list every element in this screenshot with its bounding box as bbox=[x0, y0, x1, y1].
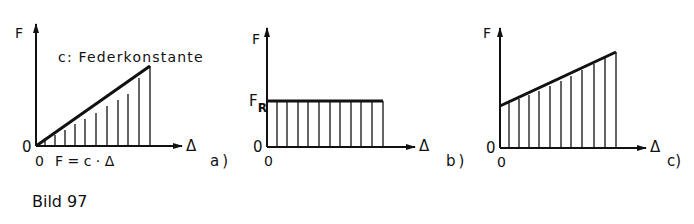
y-axis-label-b: F bbox=[252, 31, 260, 47]
level-label-b: FR bbox=[249, 92, 267, 115]
panel-tag-a: a) bbox=[210, 152, 231, 170]
figure-caption: Bild 97 bbox=[32, 192, 87, 211]
force-line-c bbox=[500, 52, 616, 106]
origin-y-label-c: 0 bbox=[486, 139, 496, 157]
origin-x-label-a: 0 bbox=[35, 153, 44, 169]
panel-b: F Δ 0 0 FR b) bbox=[249, 28, 467, 170]
hatching-b bbox=[277, 101, 383, 147]
origin-y-label-a: 0 bbox=[22, 138, 32, 156]
x-axis-label-a: Δ bbox=[186, 137, 197, 155]
force-line-a bbox=[36, 66, 150, 146]
level-label-sub: R bbox=[258, 101, 267, 115]
hatching-c bbox=[509, 52, 616, 148]
annotation-a: c: Federkonstante bbox=[58, 49, 204, 65]
panel-c: F Δ 0 0 c) bbox=[483, 25, 681, 170]
panel-tag-b: b) bbox=[446, 152, 467, 170]
formula-a: F = c · Δ bbox=[55, 153, 115, 169]
figure-canvas: F Δ 0 0 c: Federkonstante F = c · Δ a) F… bbox=[0, 0, 694, 224]
y-axis-label-c: F bbox=[483, 25, 491, 41]
x-axis-label-c: Δ bbox=[650, 138, 661, 156]
level-label-main: F bbox=[249, 92, 258, 110]
panel-tag-c: c) bbox=[667, 152, 681, 170]
origin-x-label-b: 0 bbox=[264, 153, 273, 169]
panel-a: F Δ 0 0 c: Federkonstante F = c · Δ a) bbox=[15, 24, 231, 170]
x-axis-label-b: Δ bbox=[419, 137, 430, 155]
origin-x-label-c: 0 bbox=[497, 154, 506, 170]
y-axis-label-a: F bbox=[15, 25, 23, 41]
origin-y-label-b: 0 bbox=[253, 138, 263, 156]
